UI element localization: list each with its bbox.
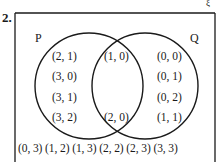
q-only-element: (1, 1) bbox=[157, 111, 182, 123]
set-q-circle bbox=[92, 33, 198, 139]
set-p-circle bbox=[35, 33, 143, 139]
outside-elements: (0, 3) (1, 2) (1, 3) (2, 2) (2, 3) (3, 3… bbox=[18, 142, 178, 154]
q-only-element: (0, 2) bbox=[157, 91, 182, 103]
question-number: 2. bbox=[2, 10, 12, 26]
q-only-element: (0, 0) bbox=[157, 50, 182, 62]
universal-set-symbol: ξ bbox=[206, 0, 210, 8]
set-p-label: P bbox=[35, 31, 42, 46]
p-only-element: (3, 2) bbox=[52, 111, 77, 123]
p-only-element: (3, 1) bbox=[52, 91, 77, 103]
q-only-element: (0, 1) bbox=[157, 70, 182, 82]
venn-diagram bbox=[0, 0, 220, 162]
intersection-element: (1, 0) bbox=[104, 50, 129, 62]
set-q-label: Q bbox=[190, 31, 199, 46]
p-only-element: (3, 0) bbox=[52, 70, 77, 82]
intersection-element: (2, 0) bbox=[104, 111, 129, 123]
p-only-element: (2, 1) bbox=[52, 50, 77, 62]
